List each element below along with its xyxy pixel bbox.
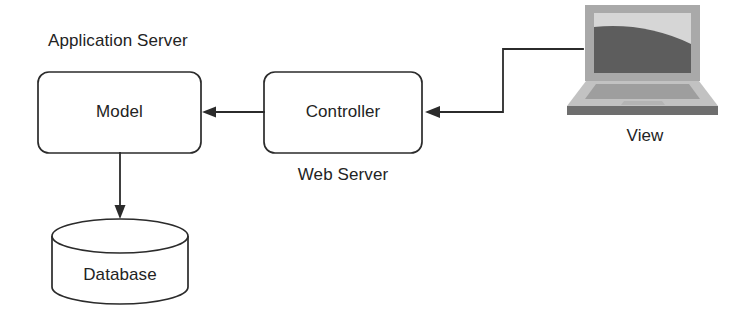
web-server-label: Web Server xyxy=(298,165,389,184)
database-cylinder-top xyxy=(52,219,188,253)
node-database[interactable]: Database xyxy=(52,219,188,304)
laptop-keyboard xyxy=(585,84,700,99)
diagram-svg: Application Server Model Controller Web … xyxy=(0,0,749,327)
model-to-database-arrowhead xyxy=(115,205,126,219)
controller-to-model-arrowhead xyxy=(202,107,216,118)
laptop-front-edge xyxy=(567,106,718,115)
node-controller[interactable]: Controller xyxy=(264,72,422,153)
model-label: Model xyxy=(96,102,143,121)
connector-model-to-database xyxy=(115,153,126,219)
database-label: Database xyxy=(83,265,157,284)
view-label: View xyxy=(627,126,665,145)
laptop-trackpad xyxy=(621,101,665,105)
controller-label: Controller xyxy=(306,102,381,121)
view-to-controller-arrowhead xyxy=(425,106,440,118)
connector-view-to-controller xyxy=(425,49,583,118)
node-view[interactable]: View xyxy=(567,5,718,145)
node-model[interactable]: Model xyxy=(38,72,201,153)
view-to-controller-line xyxy=(436,49,583,112)
application-server-label: Application Server xyxy=(48,31,188,50)
diagram-canvas: Application Server Model Controller Web … xyxy=(0,0,749,327)
connector-controller-to-model xyxy=(202,107,264,118)
